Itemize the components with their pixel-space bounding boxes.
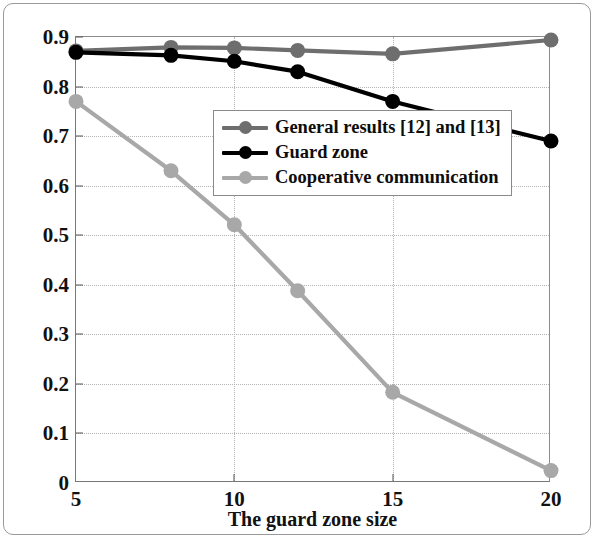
data-point	[69, 94, 84, 109]
y-tick-label: 0.7	[43, 124, 69, 149]
data-point	[385, 385, 400, 400]
legend-marker-icon	[239, 146, 252, 159]
figure: Two-way outage probability The guard zon…	[0, 0, 596, 540]
legend-marker-icon	[239, 171, 252, 184]
data-point	[544, 134, 559, 149]
legend-item[interactable]: Cooperative communication	[222, 165, 501, 190]
legend: General results [12] and [13]Guard zoneC…	[213, 110, 512, 196]
y-tick-label: 0.2	[43, 371, 69, 396]
x-axis-label: The guard zone size	[75, 508, 550, 531]
x-tick-label: 15	[382, 487, 403, 512]
data-point	[290, 283, 305, 298]
y-tick-label: 0.1	[43, 421, 69, 446]
legend-swatch-icon	[222, 171, 268, 185]
data-point	[164, 163, 179, 178]
data-point	[227, 40, 242, 55]
x-tick-label: 10	[224, 487, 245, 512]
legend-label: Guard zone	[275, 142, 368, 163]
legend-item[interactable]: General results [12] and [13]	[222, 115, 501, 140]
series-1	[69, 32, 559, 61]
y-tick-label: 0.6	[43, 173, 69, 198]
plot-area: 00.10.20.30.40.50.60.70.80.9 5101520	[75, 36, 550, 482]
series-line	[76, 40, 551, 54]
y-tick-label: 0.5	[43, 223, 69, 248]
y-tick-label: 0.4	[43, 272, 69, 297]
data-point	[227, 54, 242, 69]
data-point	[385, 94, 400, 109]
data-point	[227, 217, 242, 232]
data-point	[544, 32, 559, 47]
legend-swatch-icon	[222, 121, 268, 135]
data-point	[385, 46, 400, 61]
x-tick-label: 5	[71, 487, 82, 512]
y-tick-label: 0.9	[43, 25, 69, 50]
x-tick-label: 20	[541, 487, 562, 512]
legend-label: General results [12] and [13]	[275, 117, 501, 138]
data-point	[290, 64, 305, 79]
data-point	[164, 48, 179, 63]
legend-marker-icon	[239, 121, 252, 134]
y-tick-label: 0.8	[43, 74, 69, 99]
data-point	[544, 463, 559, 478]
data-point	[290, 43, 305, 58]
y-tick-label: 0	[59, 471, 70, 496]
data-series-layer	[76, 37, 551, 483]
data-point	[69, 45, 84, 60]
y-tick-label: 0.3	[43, 322, 69, 347]
legend-label: Cooperative communication	[275, 167, 499, 188]
legend-item[interactable]: Guard zone	[222, 140, 501, 165]
legend-swatch-icon	[222, 146, 268, 160]
